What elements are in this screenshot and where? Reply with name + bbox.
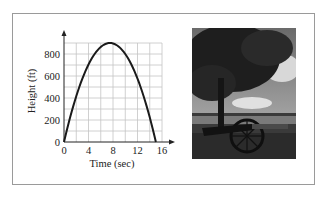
x-axis-label: Time (sec) <box>90 158 135 170</box>
svg-text:0: 0 <box>55 137 60 148</box>
svg-text:800: 800 <box>44 49 60 60</box>
svg-text:0: 0 <box>61 145 66 156</box>
svg-text:16: 16 <box>157 145 168 156</box>
chart-grid <box>64 43 162 142</box>
svg-text:600: 600 <box>44 71 60 82</box>
trajectory-curve <box>64 43 156 142</box>
svg-text:8: 8 <box>110 145 115 156</box>
cannon-photo <box>192 28 296 159</box>
svg-text:12: 12 <box>132 145 143 156</box>
svg-text:400: 400 <box>44 93 60 104</box>
y-axis-label: Height (ft) <box>26 68 38 113</box>
svg-text:4: 4 <box>86 145 92 156</box>
svg-text:200: 200 <box>44 115 60 126</box>
